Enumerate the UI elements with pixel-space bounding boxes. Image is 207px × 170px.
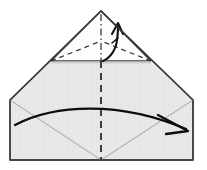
origami-figure bbox=[0, 0, 207, 170]
origami-diagram-svg bbox=[0, 0, 207, 170]
